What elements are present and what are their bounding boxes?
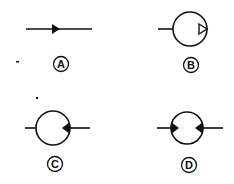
label-text: C: [51, 158, 59, 170]
label-c: C: [48, 157, 63, 172]
arrowhead-right-icon: [52, 24, 60, 34]
symbol-c: [25, 111, 90, 145]
label-b: B: [184, 58, 199, 73]
symbol-d: [157, 112, 223, 144]
stray-mark: [36, 97, 38, 99]
label-text: A: [57, 58, 65, 70]
arrowhead-right-icon: [171, 122, 179, 134]
pump-circle: [173, 12, 207, 46]
label-d: D: [182, 158, 197, 173]
label-a: A: [54, 57, 69, 72]
arrowhead-left-icon: [62, 122, 70, 134]
symbol-diagram: A B C D: [0, 0, 234, 184]
label-text: D: [185, 159, 193, 171]
arrowhead-left-icon: [195, 122, 203, 134]
label-text: B: [187, 59, 195, 71]
symbol-a: [26, 24, 92, 34]
stray-mark: [16, 61, 19, 63]
hollow-triangle-icon: [199, 24, 207, 34]
symbol-b: [158, 12, 207, 46]
